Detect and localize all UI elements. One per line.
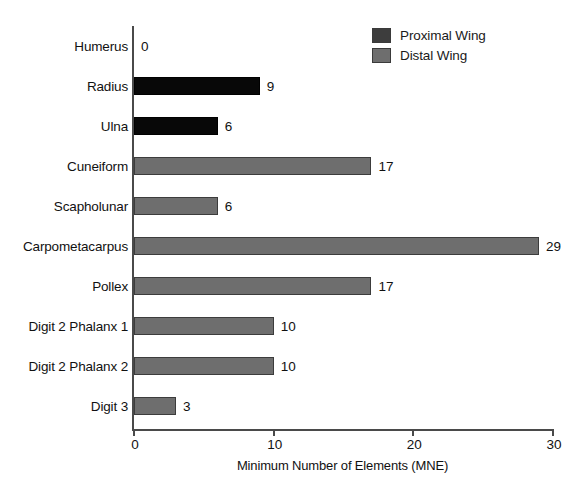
bar-value-label: 0 — [141, 37, 149, 55]
category-label: Humerus — [74, 26, 128, 66]
bar-row: Carpometacarpus29 — [0, 226, 581, 266]
bar-value-label: 10 — [281, 357, 296, 375]
bar-row: Pollex17 — [0, 266, 581, 306]
x-tick-label: 20 — [394, 437, 434, 452]
legend-item-distal-wing: Distal Wing — [372, 47, 486, 64]
bar-row: Scapholunar6 — [0, 186, 581, 226]
x-tick — [273, 429, 275, 436]
x-tick-label: 30 — [534, 437, 574, 452]
bar-value-label: 10 — [281, 317, 296, 335]
x-tick — [133, 429, 135, 436]
bar — [134, 117, 218, 135]
bar-row: Digit 2 Phalanx 210 — [0, 346, 581, 386]
bar-value-label: 6 — [225, 197, 233, 215]
bar-value-label: 3 — [183, 397, 191, 415]
x-tick-label: 10 — [255, 437, 295, 452]
legend: Proximal Wing Distal Wing — [372, 27, 486, 64]
legend-item-proximal-wing: Proximal Wing — [372, 27, 486, 44]
bar-value-label: 9 — [267, 77, 275, 95]
bar-row: Digit 33 — [0, 386, 581, 426]
bar-chart: Humerus0Radius9Ulna6Cuneiform17Scapholun… — [0, 0, 581, 482]
x-tick — [552, 429, 554, 436]
bar — [134, 77, 260, 95]
bar-row: Cuneiform17 — [0, 146, 581, 186]
legend-label-proximal: Proximal Wing — [400, 28, 486, 43]
bar — [134, 277, 371, 295]
category-label: Ulna — [101, 106, 128, 146]
x-axis-line — [132, 429, 553, 431]
bar — [134, 317, 274, 335]
category-label: Pollex — [92, 266, 128, 306]
bar-value-label: 17 — [378, 157, 393, 175]
bar-value-label: 29 — [546, 237, 561, 255]
legend-label-distal: Distal Wing — [400, 48, 467, 63]
bar-value-label: 17 — [378, 277, 393, 295]
bar — [134, 157, 371, 175]
legend-swatch-icon-distal — [372, 48, 391, 63]
category-label: Carpometacarpus — [23, 226, 128, 266]
legend-swatch-icon-proximal — [372, 28, 391, 43]
bar-row: Humerus0 — [0, 26, 581, 66]
bar-row: Digit 2 Phalanx 110 — [0, 306, 581, 346]
bar-value-label: 6 — [225, 117, 233, 135]
x-axis-title: Minimum Number of Elements (MNE) — [132, 458, 553, 473]
category-label: Digit 2 Phalanx 2 — [28, 346, 128, 386]
category-label: Digit 3 — [91, 386, 128, 426]
bar — [134, 397, 176, 415]
category-label: Digit 2 Phalanx 1 — [28, 306, 128, 346]
x-tick — [412, 429, 414, 436]
bar — [134, 197, 218, 215]
category-label: Cuneiform — [67, 146, 128, 186]
x-tick-label: 0 — [115, 437, 155, 452]
category-label: Scapholunar — [54, 186, 128, 226]
category-label: Radius — [87, 66, 128, 106]
bar-row: Ulna6 — [0, 106, 581, 146]
bar — [134, 237, 539, 255]
bar — [134, 357, 274, 375]
plot-area: Humerus0Radius9Ulna6Cuneiform17Scapholun… — [0, 0, 581, 482]
bar-row: Radius9 — [0, 66, 581, 106]
